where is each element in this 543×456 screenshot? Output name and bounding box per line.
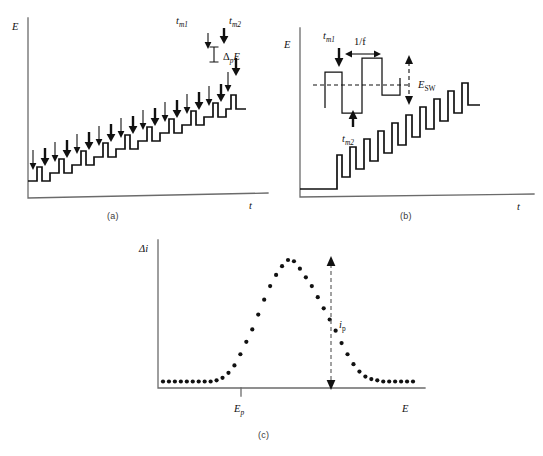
- panel-a-svg: E t tm1 tm2 ΔpE: [0, 0, 280, 230]
- panel-b-waveform: [300, 83, 480, 189]
- panel-b-axes: [300, 28, 534, 197]
- panel-b-squarewave-staircase: ESW 1/f tm1 tm2 E t: [280, 0, 543, 230]
- panel-c-ip-label: ip: [339, 319, 346, 333]
- panel-a-waveform: [28, 95, 246, 181]
- data-point: [203, 379, 207, 383]
- panel-a-tm2-label-arrow: [220, 28, 229, 44]
- data-point: [197, 379, 201, 383]
- panel-b-svg: ESW 1/f tm1 tm2 E t: [280, 0, 543, 230]
- data-point: [226, 371, 230, 375]
- data-point: [179, 379, 183, 383]
- data-point: [387, 379, 391, 383]
- data-point: [298, 267, 302, 271]
- panel-a-tm1-label: tm1: [176, 15, 188, 29]
- panel-c-x-axis-label: E: [401, 403, 409, 414]
- panel-a-tm2-arrows: [41, 58, 241, 166]
- panel-c-scatter-series: [161, 258, 415, 384]
- panel-a-step-height-label: ΔpE: [223, 51, 240, 65]
- caption-panel-b: (b): [400, 211, 412, 221]
- data-point: [173, 379, 177, 383]
- panel-c-svg: ip Δi E Ep: [95, 228, 495, 456]
- data-point: [304, 275, 308, 279]
- data-point: [191, 379, 195, 383]
- data-point: [250, 327, 254, 331]
- data-point: [185, 379, 189, 383]
- data-point: [220, 376, 224, 380]
- data-point: [351, 362, 355, 366]
- data-point: [369, 377, 373, 381]
- data-point: [334, 329, 338, 333]
- data-point: [322, 306, 326, 310]
- data-point: [161, 379, 165, 383]
- data-point: [286, 258, 290, 262]
- data-point: [316, 295, 320, 299]
- panel-b-x-axis-label: t: [517, 201, 521, 212]
- caption-panel-a: (a): [107, 211, 119, 221]
- panel-b-period-arrow: [345, 51, 381, 58]
- panel-b-period-label: 1/f: [354, 36, 366, 47]
- data-point: [363, 374, 367, 378]
- panel-a-step-height-marker: [210, 47, 219, 62]
- data-point: [292, 259, 296, 263]
- panel-b-esw-arrow: [405, 55, 413, 105]
- panel-a-y-axis-label: E: [11, 21, 19, 32]
- panel-b-y-axis-label: E: [283, 39, 291, 50]
- panel-c-y-axis-label: Δi: [138, 243, 148, 254]
- panel-b-tm1-label: tm1: [323, 30, 335, 44]
- data-point: [280, 264, 284, 268]
- data-point: [209, 379, 213, 383]
- data-point: [310, 284, 314, 288]
- data-point: [381, 379, 385, 383]
- caption-panel-c: (c): [258, 430, 269, 440]
- panel-b-tm1-arrow: [335, 48, 344, 67]
- panel-c-ip-arrow: [327, 256, 336, 390]
- panel-b-tm2-label: tm2: [342, 133, 354, 147]
- data-point: [214, 378, 218, 382]
- panel-a-x-axis-label: t: [249, 200, 253, 211]
- data-point: [393, 379, 397, 383]
- data-point: [345, 352, 349, 356]
- data-point: [411, 379, 415, 383]
- panel-a-staircase-pulse-waveform: E t tm1 tm2 ΔpE: [0, 0, 280, 230]
- panel-c-ep-label: Ep: [233, 403, 244, 417]
- data-point: [232, 363, 236, 367]
- data-point: [375, 378, 379, 382]
- data-point: [167, 379, 171, 383]
- data-point: [399, 379, 403, 383]
- panel-c-peak-response: ip Δi E Ep: [95, 228, 495, 456]
- data-point: [256, 312, 260, 316]
- panel-a-tm2-label: tm2: [229, 15, 241, 29]
- data-point: [268, 284, 272, 288]
- data-point: [238, 352, 242, 356]
- data-point: [405, 379, 409, 383]
- data-point: [339, 341, 343, 345]
- panel-b-esw-label: ESW: [417, 79, 436, 93]
- data-point: [262, 298, 266, 302]
- data-point: [357, 370, 361, 374]
- data-point: [274, 273, 278, 277]
- panel-c-axes: [158, 240, 425, 388]
- panel-a-tm1-arrows: [30, 72, 232, 170]
- data-point: [244, 340, 248, 344]
